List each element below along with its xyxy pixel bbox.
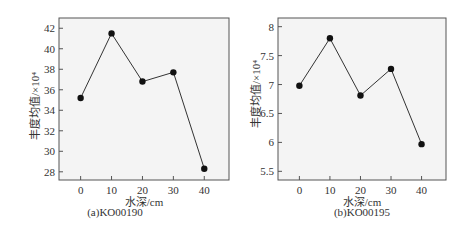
data-point <box>108 30 114 36</box>
y-tick-label: 6 <box>269 136 275 148</box>
data-point <box>327 35 333 41</box>
data-point <box>139 78 145 84</box>
chart-b-y-axis-label: 丰度均值/×10⁴ <box>247 60 263 128</box>
y-tick-label: 40 <box>44 43 56 55</box>
data-point <box>77 95 83 101</box>
chart-a-y-axis-label: 丰度均值/×10⁴ <box>26 72 42 140</box>
y-tick-label: 32 <box>44 125 55 137</box>
y-tick-label: 42 <box>44 22 55 34</box>
y-tick-label: 30 <box>44 145 56 157</box>
y-tick-label: 7 <box>269 79 275 91</box>
data-point <box>418 141 424 147</box>
y-tick-label: 38 <box>44 63 56 75</box>
y-tick-label: 34 <box>44 104 56 116</box>
data-point <box>357 92 363 98</box>
data-point <box>296 82 302 88</box>
data-point <box>388 66 394 72</box>
chart-a: 2830323436384042010203040 丰度均值/×10⁴ 水深/c… <box>0 0 235 233</box>
chart-b: 5.566.577.58010203040 丰度均值/×10⁴ 水深/cm (b… <box>235 0 470 233</box>
y-tick-label: 8 <box>269 21 275 33</box>
y-tick-label: 36 <box>44 84 56 96</box>
plot-area <box>59 18 229 180</box>
chart-a-caption: (a)KO00190 <box>30 206 200 218</box>
y-tick-label: 28 <box>44 166 56 178</box>
y-tick-label: 5.5 <box>260 165 274 177</box>
data-point <box>170 69 176 75</box>
data-point <box>201 166 207 172</box>
chart-b-caption: (b)KO00195 <box>278 206 446 218</box>
plot-area <box>278 18 446 180</box>
